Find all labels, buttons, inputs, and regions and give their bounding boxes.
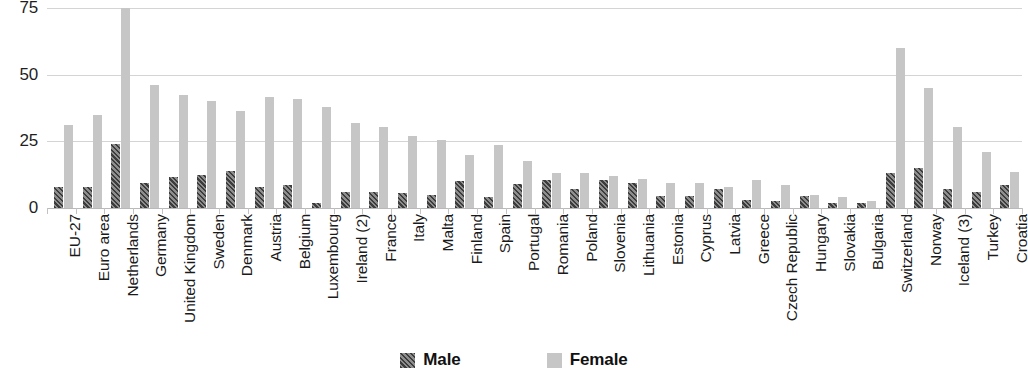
bar-group <box>793 8 822 208</box>
bar-group <box>448 8 477 208</box>
bars-layer <box>47 8 1022 208</box>
bar-group <box>420 8 449 208</box>
bar-group <box>936 8 965 208</box>
bar-male <box>628 183 637 208</box>
category-label: Croatia <box>1014 214 1028 263</box>
bar-group <box>879 8 908 208</box>
bar-group <box>76 8 105 208</box>
bar-female <box>752 180 761 208</box>
category-label: Malta <box>440 214 456 251</box>
bar-male <box>914 168 923 208</box>
bar-male <box>886 173 895 208</box>
bar-male <box>226 171 235 208</box>
bar-group <box>276 8 305 208</box>
bar-chart: 0255075 EU-27Euro areaNetherlandsGermany… <box>0 0 1028 378</box>
bar-male <box>513 184 522 208</box>
plot-area <box>47 8 1022 208</box>
bar-group <box>735 8 764 208</box>
bar-female <box>465 155 474 208</box>
bar-group <box>190 8 219 208</box>
category-label: Portugal <box>526 214 542 271</box>
category-label: Luxembourg <box>325 214 341 299</box>
bar-male <box>943 189 952 208</box>
category-label: Romania <box>555 214 571 275</box>
bar-group <box>133 8 162 208</box>
bar-female <box>351 123 360 208</box>
category-label: Euro area <box>96 214 112 281</box>
bar-female <box>924 88 933 208</box>
bar-group <box>162 8 191 208</box>
bar-group <box>391 8 420 208</box>
category-label: United Kingdom <box>182 214 198 323</box>
category-label: Austria <box>268 214 284 262</box>
bar-female <box>838 197 847 208</box>
legend-label-male: Male <box>423 350 460 370</box>
category-label: Lithuania <box>641 214 657 276</box>
category-label: Denmark <box>239 214 255 276</box>
bar-female <box>236 111 245 208</box>
category-label: Czech Republic <box>784 214 800 321</box>
category-label: Poland <box>584 214 600 262</box>
bar-male <box>169 177 178 208</box>
category-axis-labels: EU-27Euro areaNetherlandsGermanyUnited K… <box>47 214 1022 334</box>
bar-male <box>599 180 608 208</box>
bar-group <box>907 8 936 208</box>
bar-female <box>810 195 819 208</box>
bar-female <box>609 176 618 208</box>
bar-male <box>398 193 407 208</box>
bar-female <box>580 173 589 208</box>
bar-female <box>179 95 188 208</box>
bar-group <box>678 8 707 208</box>
bar-group <box>707 8 736 208</box>
bar-group <box>821 8 850 208</box>
bar-group <box>104 8 133 208</box>
bar-female <box>724 187 733 208</box>
y-tick-label: 0 <box>0 199 38 216</box>
bar-male <box>369 192 378 208</box>
bar-female <box>121 8 130 208</box>
bar-female <box>150 85 159 208</box>
y-tick-label: 50 <box>0 66 38 83</box>
bar-female <box>666 183 675 208</box>
category-label: EU-27 <box>67 214 83 257</box>
y-tick-label: 75 <box>0 0 38 16</box>
category-label: Netherlands <box>125 214 141 296</box>
bar-female <box>953 127 962 208</box>
bar-group <box>248 8 277 208</box>
bar-female <box>1010 172 1019 208</box>
category-label: Turkey <box>985 214 1001 260</box>
bar-female <box>207 101 216 208</box>
bar-group <box>621 8 650 208</box>
category-label: Belgium <box>297 214 313 269</box>
category-label: Finland <box>469 214 485 264</box>
bar-group <box>592 8 621 208</box>
category-label: Estonia <box>670 214 686 265</box>
category-label: Norway <box>928 214 944 266</box>
bar-group <box>993 8 1022 208</box>
legend-label-female: Female <box>570 350 628 370</box>
category-label: Iceland (3) <box>956 214 972 286</box>
legend-item-female[interactable]: Female <box>547 350 628 370</box>
bar-group <box>649 8 678 208</box>
y-tick-label: 25 <box>0 132 38 149</box>
category-label: Hungary <box>813 214 829 272</box>
bar-male <box>484 197 493 208</box>
bar-male <box>800 196 809 208</box>
bar-male <box>685 196 694 208</box>
bar-group <box>334 8 363 208</box>
bar-female <box>552 173 561 208</box>
bar-male <box>742 200 751 208</box>
bar-female <box>93 115 102 208</box>
category-label: Switzerland <box>899 214 915 293</box>
male-hatched-swatch <box>400 353 415 368</box>
bar-male <box>140 183 149 208</box>
category-label: Greece <box>756 214 772 264</box>
bar-male <box>341 192 350 208</box>
legend-item-male[interactable]: Male <box>400 350 460 370</box>
category-label: Latvia <box>727 214 743 255</box>
category-label: France <box>383 214 399 262</box>
category-label: Cyprus <box>698 214 714 263</box>
bar-male <box>255 187 264 208</box>
bar-male <box>972 192 981 208</box>
category-label: Sweden <box>211 214 227 269</box>
